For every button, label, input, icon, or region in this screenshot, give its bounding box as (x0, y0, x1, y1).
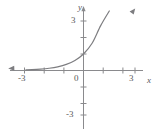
graph-figure: y x -3 3 3 -3 0 (0, 0, 158, 134)
origin-label: 0 (74, 74, 79, 83)
y-axis-arrow-icon (81, 6, 85, 11)
x-axis-label: x (147, 76, 151, 85)
coordinate-plane-svg (0, 0, 158, 134)
exponential-curve (26, 11, 109, 70)
y-axis-label: y (78, 3, 82, 12)
y-tick-label-negative-3: -3 (66, 110, 74, 119)
x-tick-label-negative-3: -3 (18, 74, 26, 83)
y-tick-label-positive-3: 3 (71, 16, 76, 25)
curve-arrow-end-icon (130, 9, 136, 15)
x-tick-label-positive-3: 3 (129, 74, 134, 83)
